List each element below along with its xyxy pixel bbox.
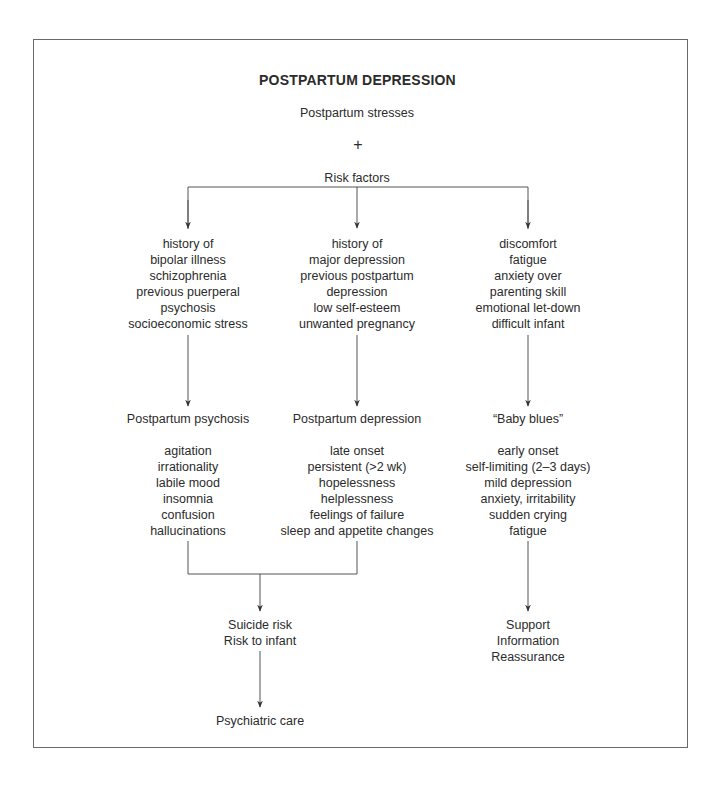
list-item: major depression xyxy=(299,252,415,268)
list-item: sudden crying xyxy=(465,507,590,523)
list-item: feelings of failure xyxy=(281,507,434,523)
list-item: mild depression xyxy=(465,475,590,491)
list-item: parenting skill xyxy=(476,284,581,300)
list-item: early onset xyxy=(465,443,590,459)
list-item: previous postpartum xyxy=(299,268,415,284)
list-item: low self-esteem xyxy=(299,300,415,316)
heading-baby-blues: “Baby blues” xyxy=(493,411,563,427)
list-item: depression xyxy=(299,284,415,300)
plus-sign: + xyxy=(353,137,362,153)
heading-psychosis: Postpartum psychosis xyxy=(127,411,249,427)
symptoms-baby-blues: early onset self-limiting (2–3 days) mil… xyxy=(465,443,590,539)
diagram-title: POSTPARTUM DEPRESSION xyxy=(0,72,715,88)
risk-factors-label: Risk factors xyxy=(324,170,389,186)
list-item: helplessness xyxy=(281,491,434,507)
postpartum-stresses: Postpartum stresses xyxy=(300,105,414,121)
list-item: socioeconomic stress xyxy=(128,316,248,332)
list-item: history of xyxy=(299,236,415,252)
list-item: Suicide risk xyxy=(224,617,296,633)
list-item: fatigue xyxy=(465,523,590,539)
list-item: Support xyxy=(491,617,565,633)
list-item: fatigue xyxy=(476,252,581,268)
list-item: history of xyxy=(128,236,248,252)
list-item: sleep and appetite changes xyxy=(281,523,434,539)
risk-list-baby-blues: discomfort fatigue anxiety over parentin… xyxy=(476,236,581,332)
risk-list-depression: history of major depression previous pos… xyxy=(299,236,415,332)
list-item: insomnia xyxy=(150,491,226,507)
list-item: unwanted pregnancy xyxy=(299,316,415,332)
list-item: previous puerperal xyxy=(128,284,248,300)
list-item: agitation xyxy=(150,443,226,459)
list-item: Information xyxy=(491,633,565,649)
list-item: irrationality xyxy=(150,459,226,475)
list-item: Reassurance xyxy=(491,649,565,665)
list-item: psychosis xyxy=(128,300,248,316)
symptoms-psychosis: agitation irrationality labile mood inso… xyxy=(150,443,226,539)
list-item: persistent (>2 wk) xyxy=(281,459,434,475)
list-item: schizophrenia xyxy=(128,268,248,284)
list-item: emotional let-down xyxy=(476,300,581,316)
list-item: hallucinations xyxy=(150,523,226,539)
list-item: bipolar illness xyxy=(128,252,248,268)
list-item: self-limiting (2–3 days) xyxy=(465,459,590,475)
risk-list-psychosis: history of bipolar illness schizophrenia… xyxy=(128,236,248,332)
list-item: confusion xyxy=(150,507,226,523)
list-item: difficult infant xyxy=(476,316,581,332)
heading-depression: Postpartum depression xyxy=(293,411,422,427)
list-item: anxiety over xyxy=(476,268,581,284)
psychiatric-care: Psychiatric care xyxy=(216,713,304,729)
severe-outcomes: Suicide risk Risk to infant xyxy=(224,617,296,649)
list-item: discomfort xyxy=(476,236,581,252)
mild-outcomes: Support Information Reassurance xyxy=(491,617,565,665)
list-item: hopelessness xyxy=(281,475,434,491)
list-item: anxiety, irritability xyxy=(465,491,590,507)
list-item: late onset xyxy=(281,443,434,459)
list-item: Risk to infant xyxy=(224,633,296,649)
symptoms-depression: late onset persistent (>2 wk) hopelessne… xyxy=(281,443,434,539)
list-item: labile mood xyxy=(150,475,226,491)
